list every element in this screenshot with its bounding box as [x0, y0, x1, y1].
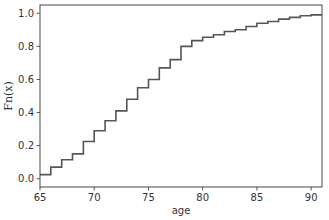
axes-frame [40, 5, 322, 187]
y-tick-label: 1.0 [18, 8, 34, 19]
x-tick-label: 80 [196, 192, 209, 203]
x-tick-label: 70 [88, 192, 101, 203]
x-tick-label: 90 [305, 192, 318, 203]
ecdf-step-line [40, 15, 322, 175]
y-tick-label: 0.0 [18, 173, 34, 184]
x-tick-label: 85 [251, 192, 264, 203]
ecdf-chart: 657075808590 0.00.20.40.60.81.0 age Fn(x… [0, 0, 329, 220]
y-axis-label: Fn(x) [2, 81, 15, 111]
y-tick-label: 0.4 [18, 107, 34, 118]
x-axis-ticks: 657075808590 [34, 187, 318, 203]
y-tick-label: 0.8 [18, 41, 34, 52]
plot-area [40, 5, 322, 187]
x-tick-label: 75 [142, 192, 155, 203]
y-tick-label: 0.2 [18, 140, 34, 151]
y-axis-ticks: 0.00.20.40.60.81.0 [18, 8, 40, 184]
y-tick-label: 0.6 [18, 74, 34, 85]
x-tick-label: 65 [34, 192, 47, 203]
x-axis-label: age [172, 205, 191, 216]
